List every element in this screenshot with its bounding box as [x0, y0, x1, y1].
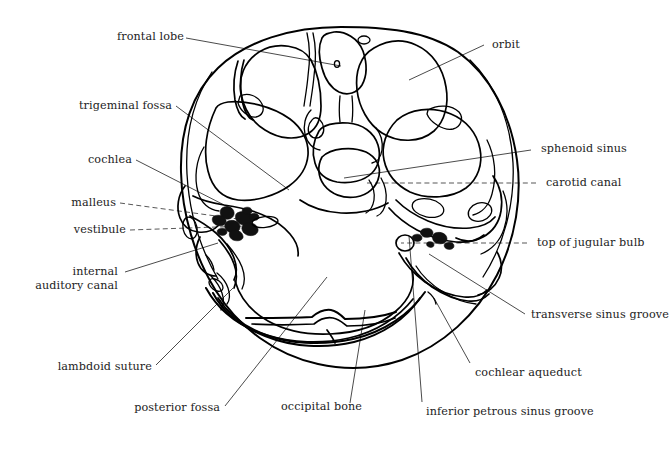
right-ossicle-fleck-1 [420, 228, 433, 237]
label-trigeminal-fossa: trigeminal fossa [52, 99, 172, 113]
anterior-midline-strip [310, 33, 315, 106]
right-outer-mastoid-wall [456, 176, 502, 241]
anatomy-figure: frontal lobe trigeminal fossa cochlea ma… [0, 0, 672, 467]
anterior-cranial-fossa [234, 32, 461, 140]
label-cochlea: cochlea [52, 153, 132, 167]
label-carotid-canal: carotid canal [546, 176, 622, 190]
label-occipital-bone: occipital bone [281, 400, 362, 414]
label-lambdoid-suture: lambdoid suture [40, 360, 152, 374]
label-inferior-petrous-sinus-groove: inferior petrous sinus groove [426, 405, 594, 419]
right-ossicle-fleck-5 [427, 242, 434, 248]
frontal-foramen [334, 61, 339, 68]
right-ossicle-fleck-2 [432, 232, 447, 243]
carotid-canal-notch [366, 180, 374, 213]
label-internal-auditory-canal-line2: auditory canal [20, 279, 118, 293]
right-petrous-ridge-2 [396, 200, 495, 228]
anterior-midline-strip-2 [304, 33, 309, 106]
sphenoid-sinus-cavity [319, 149, 380, 198]
carotid-canal-notch-2 [377, 178, 386, 216]
right-outer-mastoid-wall-2 [481, 191, 507, 254]
label-orbit: orbit [492, 38, 520, 52]
label-top-of-jugular-bulb: top of jugular bulb [537, 236, 645, 250]
middle-cranial-fossa [196, 102, 495, 215]
label-internal-auditory-canal-line1: internal [20, 265, 118, 279]
inner-table-left [187, 72, 218, 279]
label-frontal-lobe: frontal lobe [86, 30, 184, 44]
left-petrous-temporal-bone [178, 186, 298, 289]
cochlear-aqueduct-slit [428, 292, 436, 304]
leader-occipital-bone [350, 310, 365, 403]
ossicle-fleck-2 [217, 228, 227, 235]
label-cochlear-aqueduct: cochlear aqueduct [475, 366, 582, 380]
label-transverse-sinus-groove: transverse sinus groove [531, 308, 669, 322]
sella-midline-vertical-2 [352, 96, 353, 122]
right-ossicle-fleck-4 [444, 242, 454, 249]
vestibule-shape [242, 223, 258, 236]
right-petrous-air-cell [410, 196, 445, 220]
posterior-cranial-fossa [206, 270, 436, 346]
right-frontal-fossa [357, 41, 447, 140]
internal-occipital-crest [246, 310, 396, 319]
inner-table-right [470, 60, 513, 277]
right-temporal-fossa [383, 109, 481, 196]
right-ossicle-fleck-3 [412, 234, 422, 241]
label-vestibule: vestibule [40, 223, 126, 237]
leader-trigeminal-fossa [176, 106, 289, 190]
semicircular-canal-2 [229, 230, 243, 241]
leader-frontal-lobe [186, 38, 341, 66]
accessory-air-cell [358, 36, 370, 44]
central-skull-base [300, 96, 388, 216]
label-sphenoid-sinus: sphenoid sinus [541, 142, 627, 156]
right-transverse-groove [416, 266, 476, 304]
clivus-border [300, 200, 388, 213]
label-posterior-fossa: posterior fossa [112, 401, 220, 415]
internal-occipital-crest-2 [252, 318, 395, 326]
sella-midline-vertical [339, 96, 340, 122]
label-internal-auditory-canal: internal auditory canal [20, 265, 118, 292]
leader-inferior-petrous-sinus-groove [409, 236, 422, 402]
label-malleus: malleus [40, 196, 116, 210]
semicircular-canal-1 [212, 215, 226, 226]
ossicle-fleck-3 [242, 207, 252, 214]
